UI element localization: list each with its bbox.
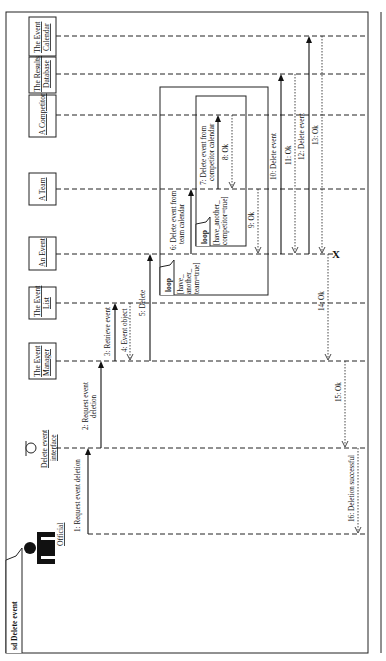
svg-text:12: Delete event: 12: Delete event <box>298 113 306 160</box>
svg-text:competitor calendar: competitor calendar <box>208 123 216 181</box>
svg-text:List: List <box>42 296 51 309</box>
frame-title: sd Delete event <box>10 601 19 650</box>
svg-text:The Event: The Event <box>33 345 42 377</box>
message-12: 12: Delete event <box>298 36 312 254</box>
svg-text:loop: loop <box>164 278 173 292</box>
message-3: 3: Retrieve event <box>104 303 118 361</box>
svg-text:10: Delete event: 10: Delete event <box>270 133 278 180</box>
header-team: A Team <box>29 173 56 205</box>
header-event: An Event <box>29 237 56 270</box>
message-14: 14: Ok <box>318 254 331 360</box>
svg-text:loop: loop <box>200 230 209 244</box>
actor-icon <box>24 532 55 564</box>
svg-text:2: Request event: 2: Request event <box>82 382 90 430</box>
svg-text:Official: Official <box>56 523 65 546</box>
svg-text:Database: Database <box>42 60 51 88</box>
sequence-diagram: sd Delete event The Event Calendar The R… <box>0 0 386 661</box>
svg-text:6: Delete event from: 6: Delete event from <box>170 190 178 250</box>
header-event-list: The Event List <box>29 285 56 319</box>
message-16: 16: Deletion successful <box>348 448 361 533</box>
svg-text:A Team: A Team <box>38 177 47 201</box>
header-results-database: The Results Database <box>29 56 56 93</box>
svg-text:team=true]: team=true] <box>193 262 201 294</box>
destroy-marker: X <box>332 248 340 260</box>
message-7: 7: Delete event from competitor calendar <box>200 115 221 189</box>
svg-text:9: Ok: 9: Ok <box>248 211 256 228</box>
svg-text:Delete event: Delete event <box>40 429 49 468</box>
svg-text:14: Ok: 14: Ok <box>318 291 326 311</box>
svg-text:Manager: Manager <box>42 349 51 376</box>
svg-text:Calendar: Calendar <box>42 23 51 51</box>
message-1: 1: Request event deletion <box>74 448 91 534</box>
svg-text:16: Deletion successful: 16: Deletion successful <box>348 455 356 522</box>
diagram-frame <box>6 12 368 653</box>
svg-text:11: Ok: 11: Ok <box>285 145 293 165</box>
message-11: 11: Ok <box>285 74 298 253</box>
svg-text:deletion: deletion <box>90 394 98 418</box>
svg-text:The Event: The Event <box>33 21 42 53</box>
message-2: 2: Request event deletion <box>82 361 104 448</box>
message-13: 13: Ok <box>312 36 325 253</box>
message-4: 4: Event object <box>121 303 133 360</box>
svg-text:The Event: The Event <box>33 285 42 317</box>
svg-text:8: Ok: 8: Ok <box>222 143 230 160</box>
svg-text:13: Ok: 13: Ok <box>312 125 320 145</box>
svg-text:An Event: An Event <box>38 237 47 267</box>
header-event-manager: The Event Manager <box>29 343 56 379</box>
svg-text:7: Delete event from: 7: Delete event from <box>200 125 208 185</box>
svg-text:[have_: [have_ <box>177 274 185 294</box>
svg-text:team calendar: team calendar <box>178 203 186 244</box>
header-event-calendar: The Event Calendar <box>29 17 56 56</box>
svg-text:competitor=true]: competitor=true] <box>221 196 229 245</box>
svg-text:interface: interface <box>49 434 58 461</box>
svg-text:4: Event object: 4: Event object <box>121 308 129 352</box>
svg-text:5: Delete: 5: Delete <box>139 290 147 316</box>
svg-text:A Competitor: A Competitor <box>38 93 47 135</box>
message-5: 5: Delete <box>139 254 153 361</box>
svg-text:[have_another_: [have_another_ <box>213 200 221 245</box>
svg-text:15: Ok: 15: Ok <box>335 382 343 402</box>
message-8: 8: Ok <box>222 115 235 188</box>
svg-text:another_: another_ <box>185 268 193 294</box>
message-9: 9: Ok <box>248 189 261 253</box>
boundary-icon <box>26 441 36 456</box>
message-15: 15: Ok <box>335 361 348 447</box>
message-6: 6: Delete event from team calendar <box>170 189 194 254</box>
header-competitor: A Competitor <box>29 93 56 137</box>
svg-text:3: Retrieve event: 3: Retrieve event <box>104 307 112 356</box>
header-official: Official <box>24 523 65 564</box>
header-delete-interface: Delete event interface <box>26 429 58 468</box>
svg-text:1: Request event deletion: 1: Request event deletion <box>74 459 82 532</box>
message-10: 10: Delete event <box>270 74 284 254</box>
svg-text:The Results: The Results <box>33 56 42 92</box>
